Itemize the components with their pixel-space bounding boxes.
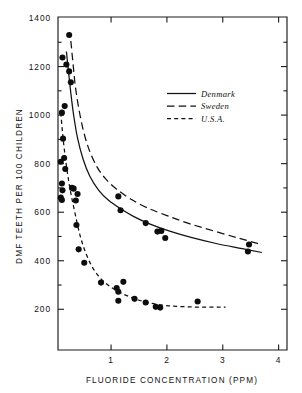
plot-frame [58, 17, 287, 350]
data-point [71, 186, 77, 192]
data-point [59, 110, 65, 116]
data-point [120, 279, 126, 285]
y-tick-label: 1000 [29, 110, 51, 120]
data-point [63, 62, 69, 68]
data-point [118, 207, 124, 213]
data-point [115, 289, 121, 295]
y-tick-label: 600 [34, 207, 51, 217]
scatter-plot-svg: 1234 200400600800100012001400 DenmarkSwe… [0, 0, 302, 393]
data-point [115, 193, 121, 199]
y-tick-label: 800 [34, 159, 51, 169]
data-point [98, 280, 104, 286]
data-point [60, 136, 66, 142]
y-tick-label: 400 [34, 256, 51, 266]
data-point [143, 299, 149, 305]
data-point [62, 103, 68, 109]
y-tick-label: 1200 [29, 62, 51, 72]
data-point [158, 228, 164, 234]
data-point [62, 166, 68, 172]
data-point [131, 296, 137, 302]
data-point [75, 191, 81, 197]
data-point [59, 181, 65, 187]
data-point [59, 197, 65, 203]
curve-denmark [66, 52, 261, 253]
data-point [59, 187, 65, 193]
data-point [115, 298, 121, 304]
data-point [73, 222, 79, 228]
y-tick-label: 1400 [29, 13, 51, 23]
y-axis-ticks [58, 42, 287, 309]
legend-label-sweden: Sweden [201, 101, 229, 111]
x-tick-label: 3 [220, 355, 226, 365]
data-point [245, 248, 251, 254]
data-point [162, 235, 168, 241]
y-tick-label: 200 [34, 304, 51, 314]
legend: DenmarkSwedenU.S.A. [167, 89, 235, 124]
data-point [66, 32, 72, 38]
data-point [246, 241, 252, 247]
x-tick-label: 2 [164, 355, 170, 365]
curve-sweden [71, 41, 262, 245]
data-point [59, 55, 65, 61]
fitted-curves [61, 41, 262, 307]
y-axis-tick-labels: 200400600800100012001400 [29, 13, 51, 314]
legend-label-usa: U.S.A. [201, 114, 225, 124]
x-axis-title: FLUORIDE CONCENTRATION (PPM) [86, 376, 258, 385]
x-tick-label: 4 [276, 355, 282, 365]
data-point [81, 260, 87, 266]
data-point [66, 68, 72, 74]
curve-usa [61, 113, 226, 307]
data-point [61, 155, 67, 161]
data-point [76, 246, 82, 252]
data-point [195, 298, 201, 304]
chart-figure: 1234 200400600800100012001400 DenmarkSwe… [0, 0, 302, 393]
data-point [157, 305, 163, 311]
data-point [143, 220, 149, 226]
x-tick-label: 1 [108, 355, 114, 365]
legend-label-denmark: Denmark [200, 89, 235, 99]
y-axis-title: DMF TEETH PER 100 CHILDREN [15, 108, 24, 264]
data-point [68, 79, 74, 85]
x-axis-tick-labels: 1234 [108, 355, 281, 365]
data-point [73, 198, 79, 204]
